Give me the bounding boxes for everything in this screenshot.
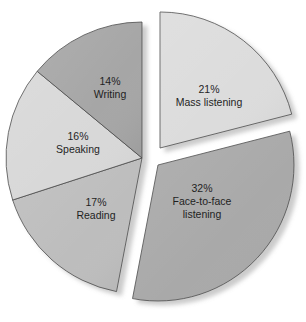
pie-chart: 21%Mass listening32%Face-to-facelistenin…	[0, 0, 306, 322]
slice-category-label: Writing	[94, 88, 127, 100]
slice-category-label: Speaking	[56, 143, 100, 155]
slice-category-label: Mass listening	[176, 96, 243, 108]
pie-slices	[6, 12, 294, 301]
slice-category-label: listening	[183, 208, 222, 220]
slice-percent-label: 32%	[191, 182, 212, 194]
pie-chart-canvas: 21%Mass listening32%Face-to-facelistenin…	[0, 0, 306, 322]
slice-percent-label: 17%	[85, 196, 106, 208]
slice-percent-label: 16%	[67, 130, 88, 142]
pie-slice-shading	[160, 12, 292, 148]
slice-percent-label: 21%	[198, 83, 219, 95]
slice-percent-label: 14%	[99, 75, 120, 87]
slice-category-label: Reading	[76, 209, 115, 221]
slice-category-label: Face-to-face	[173, 195, 232, 207]
pie-slice-mass-listening	[160, 12, 292, 148]
